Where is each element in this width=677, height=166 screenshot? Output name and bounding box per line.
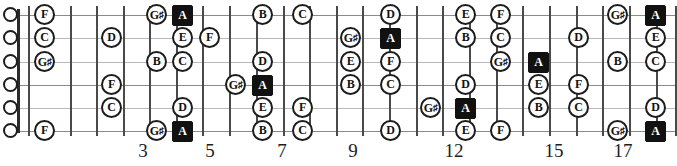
open-string-marker-6[interactable] [3,123,18,138]
note-label: B [259,7,267,21]
fret-line-12 [336,6,338,136]
fret-line-20 [549,6,551,136]
note-marker[interactable]: G♯ [146,120,167,141]
note-marker[interactable]: D [645,97,666,118]
note-marker[interactable]: F [380,51,401,72]
note-marker[interactable]: A [252,75,273,96]
note-marker[interactable]: A [645,5,666,26]
note-label: C [496,30,504,44]
note-marker[interactable]: F [199,27,220,48]
note-marker[interactable]: B [528,97,549,118]
fret-line-5 [149,6,151,136]
note-marker[interactable]: D [101,27,122,48]
open-string-marker-1[interactable] [3,7,18,22]
note-label: D [651,100,659,114]
note-label: E [462,123,470,137]
note-marker[interactable]: C [292,120,313,141]
sharp-icon: ♯ [238,79,243,90]
note-marker[interactable]: D [568,27,589,48]
sharp-icon: ♯ [353,32,358,43]
note-marker[interactable]: A [528,52,549,73]
note-marker[interactable]: C [172,51,193,72]
note-marker[interactable]: B [146,51,167,72]
note-marker[interactable]: F [490,120,511,141]
note-marker[interactable]: C [568,97,589,118]
open-string-marker-3[interactable] [3,54,18,69]
fret-line-15 [416,6,418,136]
fret-line-1 [28,6,30,136]
note-marker[interactable]: G♯ [490,51,511,72]
note-marker[interactable]: C [34,27,55,48]
sharp-icon: ♯ [620,125,625,136]
note-marker[interactable]: B [455,27,476,48]
note-marker[interactable]: F [490,4,511,25]
fret-line-23 [629,6,631,136]
note-marker[interactable]: F [34,4,55,25]
note-label: D [574,30,582,44]
note-label: G [611,124,620,138]
fret-line-22 [602,6,604,136]
note-marker[interactable]: A [380,28,401,49]
note-label: D [386,7,394,21]
note-marker[interactable]: C [645,51,666,72]
note-label: D [178,100,186,114]
note-marker[interactable]: B [607,51,628,72]
note-marker[interactable]: F [101,74,122,95]
note-marker[interactable]: G♯ [607,4,628,25]
note-marker[interactable]: E [340,51,361,72]
note-marker[interactable]: D [455,74,476,95]
note-marker[interactable]: A [645,121,666,142]
sharp-icon: ♯ [503,56,508,67]
note-marker[interactable]: C [101,97,122,118]
fret-number-label: 12 [439,140,469,162]
note-marker[interactable]: A [172,121,193,142]
sharp-icon: ♯ [159,125,164,136]
note-marker[interactable]: F [568,74,589,95]
sharp-icon: ♯ [159,9,164,20]
note-marker[interactable]: D [172,97,193,118]
note-marker[interactable]: E [172,27,193,48]
note-label: B [535,100,543,114]
note-marker[interactable]: C [292,4,313,25]
note-marker[interactable]: B [252,4,273,25]
note-marker[interactable]: G♯ [420,97,441,118]
note-marker[interactable]: D [380,120,401,141]
note-marker[interactable]: G♯ [340,27,361,48]
note-marker[interactable]: E [455,120,476,141]
note-marker[interactable]: D [380,4,401,25]
note-marker[interactable]: C [380,74,401,95]
note-label: E [179,30,187,44]
note-label: A [534,55,542,69]
note-marker[interactable]: G♯ [146,4,167,25]
fret-number-label: 9 [338,140,368,162]
note-label: B [614,54,622,68]
note-marker[interactable]: B [252,120,273,141]
note-marker[interactable]: E [252,97,273,118]
note-label: A [178,124,186,138]
note-label: D [258,54,266,68]
note-label: E [652,30,660,44]
note-marker[interactable]: E [645,27,666,48]
note-marker[interactable]: A [172,5,193,26]
fret-number-label: 17 [608,140,638,162]
note-marker[interactable]: B [340,74,361,95]
open-string-marker-5[interactable] [3,100,18,115]
note-marker[interactable]: G♯ [607,120,628,141]
note-marker[interactable]: E [528,74,549,95]
note-marker[interactable]: G♯ [225,74,246,95]
fret-line-3 [96,6,98,136]
fretboard-diagram: FCG♯FDFCG♯BG♯AECDAFG♯BDAEBCFCG♯EBDAFCDG♯… [0,0,677,166]
note-label: C [298,7,306,21]
note-marker[interactable]: A [455,98,476,119]
note-marker[interactable]: F [34,120,55,141]
note-marker[interactable]: D [252,51,273,72]
note-marker[interactable]: E [455,4,476,25]
note-label: G [494,55,503,69]
string-line-1 [17,15,677,16]
note-marker[interactable]: F [292,97,313,118]
note-label: C [651,54,659,68]
open-string-marker-4[interactable] [3,77,18,92]
note-marker[interactable]: C [490,27,511,48]
open-string-marker-2[interactable] [3,30,18,45]
note-marker[interactable]: G♯ [34,51,55,72]
